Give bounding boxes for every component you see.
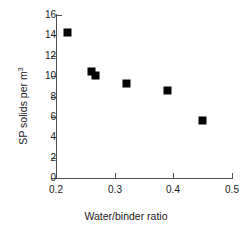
y-axis-title-superscript: 3	[17, 67, 24, 71]
y-tick-label: 16	[16, 10, 56, 20]
x-axis-title: Water/binder ratio	[0, 210, 252, 222]
x-axis-line	[56, 178, 233, 179]
y-tick-mark	[56, 15, 62, 16]
x-tick-mark	[56, 173, 57, 179]
y-axis-title-text: SP solids per m	[17, 71, 29, 144]
x-tick-mark	[232, 173, 233, 179]
x-tick-label: 0.5	[212, 185, 252, 195]
data-point	[199, 117, 206, 124]
x-tick-label: 0.3	[95, 185, 135, 195]
x-tick-mark	[173, 173, 174, 179]
data-point	[92, 72, 99, 79]
x-tick-mark	[115, 173, 116, 179]
y-axis-title: SP solids per m3	[17, 26, 29, 186]
data-point	[123, 80, 130, 87]
scatter-chart: 0246810121416 0.20.30.40.5 SP solids per…	[0, 0, 252, 235]
x-tick-label: 0.2	[36, 185, 76, 195]
data-point	[64, 29, 71, 36]
x-tick-label: 0.4	[153, 185, 193, 195]
data-point	[164, 87, 171, 94]
plot-area: 0246810121416 0.20.30.40.5	[0, 0, 252, 235]
